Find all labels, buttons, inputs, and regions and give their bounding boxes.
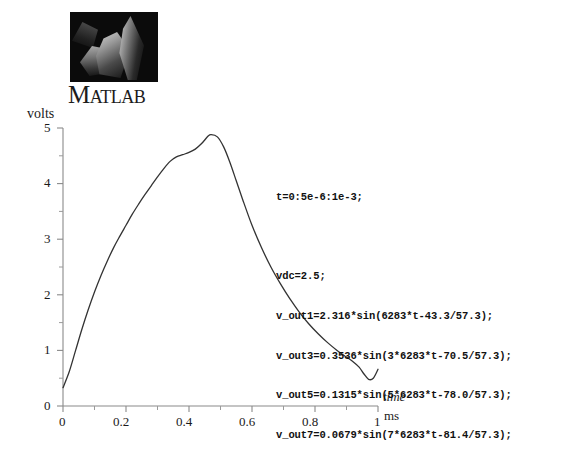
y-tick-label-5: 5 — [44, 120, 51, 136]
y-tick-label-4: 4 — [44, 175, 51, 191]
x-tick-label-0: 0 — [59, 414, 66, 430]
y-axis-title: volts — [27, 106, 54, 122]
y-tick-label-1: 1 — [44, 342, 51, 358]
y-tick-label-2: 2 — [44, 287, 51, 303]
x-tick-label-0-4: 0.4 — [176, 414, 192, 430]
code-line-out1: v_out1=2.316*sin(6283*t-43.3/57.3); — [276, 310, 555, 323]
code-line-time: t=0:5e-6:1e-3; — [276, 191, 555, 204]
code-line-out5: v_out5=0.1315*sin(5*6283*t-78.0/57.3); — [276, 389, 555, 402]
y-tick-label-3: 3 — [44, 231, 51, 247]
code-line-out7: v_out7=0.0679*sin(7*6283*t-81.4/57.3); — [276, 429, 555, 442]
code-line-out3: v_out3=0.3536*sin(3*6283*t-70.5/57.3); — [276, 350, 555, 363]
code-blank-1 — [276, 231, 555, 244]
matlab-code-listing: t=0:5e-6:1e-3; vdc=2.5; v_out1=2.316*sin… — [276, 165, 555, 450]
x-tick-label-0-2: 0.2 — [113, 414, 129, 430]
x-tick-label-0-6: 0.6 — [239, 414, 255, 430]
code-line-vdc: vdc=2.5; — [276, 270, 555, 283]
y-tick-label-0: 0 — [44, 398, 51, 414]
y-axis-minor-ticks — [59, 156, 63, 378]
